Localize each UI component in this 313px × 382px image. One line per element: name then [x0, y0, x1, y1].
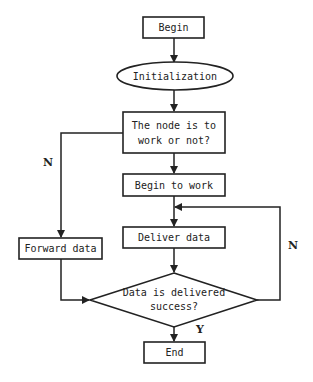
- work-decision-box: [123, 112, 225, 153]
- begin-label: Begin: [158, 22, 188, 33]
- edge-decision-forward: [61, 133, 123, 237]
- label-success-yes: Y: [195, 323, 204, 336]
- success-decision-diamond: [90, 273, 257, 327]
- label-success-no: N: [288, 239, 298, 252]
- end-label: End: [165, 347, 183, 358]
- node-initialization: Initialization: [117, 62, 233, 90]
- forward-data-label: Forward data: [24, 243, 96, 254]
- work-decision-line2: work or not?: [138, 135, 210, 146]
- node-end: End: [144, 342, 205, 363]
- work-decision-line1: The node is to: [132, 120, 216, 131]
- node-success-decision: Data is delivered success?: [90, 273, 257, 327]
- label-work-no: N: [43, 156, 53, 169]
- begin-to-work-label: Begin to work: [135, 180, 213, 191]
- flowchart: Begin Initialization The node is to work…: [0, 0, 313, 382]
- initialization-label: Initialization: [133, 71, 217, 82]
- node-work-decision: The node is to work or not?: [123, 112, 225, 153]
- deliver-data-label: Deliver data: [138, 232, 210, 243]
- edge-forward-success: [61, 259, 89, 300]
- node-begin: Begin: [143, 17, 204, 38]
- node-forward-data: Forward data: [19, 238, 102, 259]
- success-decision-line2: success?: [150, 301, 198, 312]
- node-begin-to-work: Begin to work: [123, 174, 225, 196]
- success-decision-line1: Data is delivered: [123, 287, 225, 298]
- node-deliver-data: Deliver data: [123, 227, 225, 248]
